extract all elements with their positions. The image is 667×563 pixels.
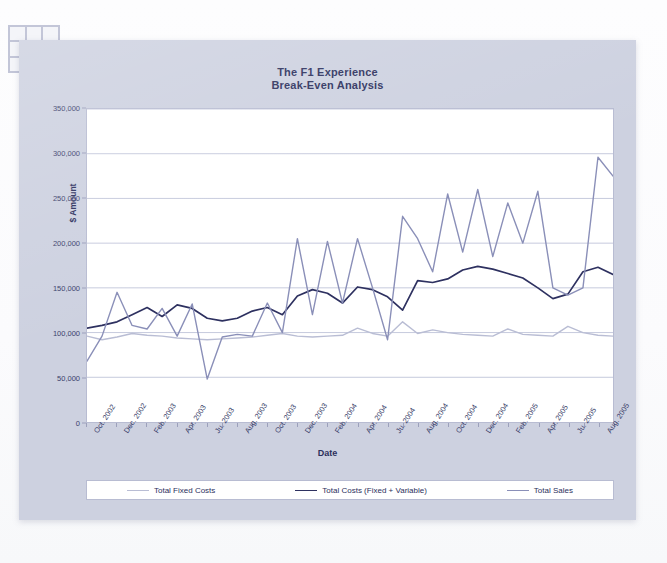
- x-axis-tick-mark: [327, 423, 328, 427]
- y-axis-tick-label: 200,000: [53, 239, 80, 248]
- legend-line-icon: [507, 490, 529, 491]
- plot-area: [86, 108, 614, 423]
- x-axis-tick-label: Oct. 2004: [454, 430, 462, 435]
- x-axis-tick-mark: [418, 423, 419, 427]
- legend-item[interactable]: Total Costs (Fixed + Variable): [295, 486, 427, 495]
- y-axis-tick-label: 50,000: [57, 374, 80, 383]
- x-axis-tick-mark: [116, 423, 117, 427]
- x-axis-title: Date: [19, 448, 636, 458]
- legend-label: Total Sales: [534, 486, 573, 495]
- grid-cell: [10, 27, 25, 40]
- x-axis-tick-mark: [358, 423, 359, 427]
- x-axis-tick-label: Apr. 2004: [364, 430, 372, 435]
- y-axis-title: $ Amount: [68, 158, 78, 248]
- grid-cell: [27, 27, 42, 40]
- x-axis-tick-label: Dec. 2002: [122, 430, 130, 435]
- x-axis-tick-label: Aug. 2004: [424, 430, 432, 435]
- x-axis-tick-mark: [599, 423, 600, 427]
- y-axis-tick-mark: [82, 288, 86, 289]
- legend-line-icon: [295, 490, 317, 491]
- y-axis-tick-label: 150,000: [53, 284, 80, 293]
- x-axis-tick-mark: [478, 423, 479, 427]
- y-axis-tick-mark: [82, 333, 86, 334]
- x-axis-tick-label: Ju. 2003: [213, 430, 221, 435]
- x-axis-tick-mark: [448, 423, 449, 427]
- x-axis-tick-mark: [146, 423, 147, 427]
- x-axis-tick-label: Feb. 2004: [333, 430, 341, 435]
- y-axis-tick-label: 100,000: [53, 329, 80, 338]
- x-axis-tick-mark: [267, 423, 268, 427]
- x-axis-tick-label: Dec. 2004: [484, 430, 492, 435]
- chart-title-main: The F1 Experience: [19, 66, 636, 79]
- y-axis-tick-label: 300,000: [53, 149, 80, 158]
- x-axis-tick-mark: [569, 423, 570, 427]
- x-axis-tick-mark: [539, 423, 540, 427]
- legend-item[interactable]: Total Sales: [507, 486, 573, 495]
- legend-line-icon: [127, 490, 149, 491]
- x-axis-tick-mark: [237, 423, 238, 427]
- y-axis-tick-label: 0: [76, 419, 80, 428]
- x-axis-tick-label: Aug. 2005: [605, 430, 613, 435]
- x-axis-tick-label: Ju. 2005: [575, 430, 583, 435]
- chart-title: The F1 Experience Break-Even Analysis: [19, 66, 636, 92]
- x-axis-tick-label: Feb. 2005: [514, 430, 522, 435]
- x-axis-tick-mark: [86, 423, 87, 427]
- x-axis-tick-mark: [388, 423, 389, 427]
- legend-item[interactable]: Total Fixed Costs: [127, 486, 215, 495]
- x-axis-tick-mark: [207, 423, 208, 427]
- x-axis-tick-label: Ju. 2004: [394, 430, 402, 435]
- x-axis-tick-mark: [508, 423, 509, 427]
- x-axis-tick-label: Oct. 2003: [273, 430, 281, 435]
- y-axis-tick-mark: [82, 108, 86, 109]
- y-axis-tick-label: 250,000: [53, 194, 80, 203]
- chart-lines: [87, 109, 613, 422]
- plot-wrapper: $ Amount 050,000100,000150,000200,000250…: [86, 108, 614, 423]
- chart-card: The F1 Experience Break-Even Analysis $ …: [19, 40, 636, 520]
- grid-cell: [43, 27, 58, 40]
- y-axis-tick-mark: [82, 198, 86, 199]
- x-axis-tick-label: Apr. 2003: [183, 430, 191, 435]
- y-axis-tick-label: 350,000: [53, 104, 80, 113]
- x-axis-tick-mark: [177, 423, 178, 427]
- x-axis-tick-label: Oct. 2002: [92, 430, 100, 435]
- chart-title-sub: Break-Even Analysis: [19, 79, 636, 92]
- x-axis-tick-label: Aug. 2003: [243, 430, 251, 435]
- y-axis-tick-mark: [82, 243, 86, 244]
- chart-legend: Total Fixed CostsTotal Costs (Fixed + Va…: [86, 480, 614, 500]
- legend-label: Total Costs (Fixed + Variable): [322, 486, 427, 495]
- legend-label: Total Fixed Costs: [154, 486, 215, 495]
- x-axis-tick-mark: [297, 423, 298, 427]
- x-axis-tick-label: Dec. 2003: [303, 430, 311, 435]
- x-axis-tick-label: Apr. 2005: [545, 430, 553, 435]
- y-axis-tick-mark: [82, 153, 86, 154]
- x-axis-tick-label: Feb. 2003: [152, 430, 160, 435]
- y-axis-tick-mark: [82, 378, 86, 379]
